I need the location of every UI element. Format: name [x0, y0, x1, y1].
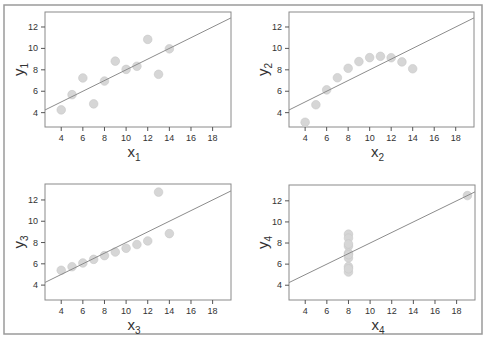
x-tick-label: 6 [324, 306, 329, 316]
data-point [111, 57, 120, 66]
x-tick-label: 16 [186, 306, 196, 316]
x-axis-label: x4 [371, 316, 385, 336]
data-point [122, 244, 131, 253]
x-tick-label: 12 [386, 133, 396, 143]
y-tick-label: 6 [33, 86, 38, 96]
x-tick-label: 4 [59, 133, 64, 143]
y-tick-label: 12 [28, 22, 38, 32]
x-tick-label: 8 [346, 133, 351, 143]
y-tick-label: 10 [28, 216, 38, 226]
x-tick-label: 18 [208, 133, 218, 143]
y-tick-label: 10 [272, 217, 282, 227]
x-axis-label: x3 [127, 316, 141, 336]
data-point [301, 118, 310, 127]
scatter-panel-2: 46810121416184681012x2y2 [254, 12, 474, 163]
x-tick-label: 10 [121, 133, 131, 143]
y-tick-label: 8 [33, 65, 38, 75]
data-point [376, 52, 385, 61]
data-point [344, 240, 353, 249]
data-point [143, 35, 152, 44]
data-point [79, 259, 88, 268]
x-tick-label: 16 [430, 306, 440, 316]
x-axis-label-subscript: 2 [378, 152, 384, 163]
x-tick-label: 16 [186, 133, 196, 143]
x-tick-label: 14 [408, 133, 418, 143]
y-tick-label: 4 [33, 108, 38, 118]
x-tick-label: 18 [451, 133, 461, 143]
data-point [165, 229, 174, 238]
x-tick-label: 6 [80, 133, 85, 143]
y-axis-label-subscript: 3 [19, 235, 30, 241]
data-point [57, 106, 66, 115]
x-tick-label: 8 [346, 306, 351, 316]
x-tick-label: 12 [387, 306, 397, 316]
x-tick-label: 14 [164, 306, 174, 316]
plot-frame [289, 12, 474, 127]
x-axis-label-subscript: 1 [135, 152, 141, 163]
x-tick-label: 12 [143, 133, 153, 143]
y-tick-label: 4 [277, 280, 282, 290]
data-point [398, 58, 407, 67]
x-tick-label: 18 [208, 306, 218, 316]
x-axis-label-subscript: 4 [379, 325, 385, 336]
x-tick-label: 4 [303, 306, 308, 316]
y-axis-label-subscript: 1 [19, 63, 30, 69]
data-point [154, 70, 163, 79]
data-point [154, 188, 163, 197]
y-tick-label: 6 [277, 259, 282, 269]
data-point [344, 264, 353, 273]
plot-frame [289, 185, 475, 300]
y-tick-label: 8 [33, 238, 38, 248]
data-point [100, 251, 109, 260]
y-axis-label: y4 [254, 236, 274, 250]
data-point [344, 64, 353, 73]
data-point [365, 53, 374, 62]
data-point [68, 262, 77, 271]
y-tick-label: 4 [277, 108, 282, 118]
x-axis-label: x2 [371, 143, 385, 163]
x-axis-label-subscript: 3 [135, 325, 141, 336]
y-tick-label: 6 [277, 86, 282, 96]
y-tick-label: 12 [28, 195, 38, 205]
data-point [143, 237, 152, 246]
x-tick-label: 4 [303, 133, 308, 143]
x-tick-label: 10 [365, 133, 375, 143]
x-tick-label: 12 [143, 306, 153, 316]
scatter-panel-4: 46810121416184681012x4y4 [254, 185, 475, 336]
x-tick-label: 6 [324, 133, 329, 143]
y-axis-label: y1 [10, 63, 30, 77]
y-axis-label: y3 [10, 235, 30, 249]
x-tick-label: 10 [121, 306, 131, 316]
y-tick-label: 10 [272, 43, 282, 53]
y-tick-label: 4 [33, 280, 38, 290]
y-axis-label: y2 [254, 63, 274, 77]
x-tick-label: 14 [408, 306, 418, 316]
scatter-panel-1: 46810121416184681012x1y1 [10, 12, 231, 163]
data-point [133, 240, 142, 249]
data-point [89, 255, 98, 264]
y-tick-label: 8 [277, 65, 282, 75]
y-axis-label-subscript: 2 [263, 63, 274, 69]
scatter-panel-3: 46810121416184681012x3y3 [10, 184, 231, 336]
x-axis-label: x1 [127, 143, 141, 163]
x-tick-label: 14 [164, 133, 174, 143]
y-tick-label: 6 [33, 259, 38, 269]
data-point [79, 74, 88, 83]
x-tick-label: 8 [102, 133, 107, 143]
data-point [408, 64, 417, 73]
y-tick-label: 12 [272, 22, 282, 32]
data-point [333, 73, 342, 82]
y-tick-label: 10 [28, 43, 38, 53]
x-tick-label: 4 [59, 306, 64, 316]
y-axis-label-subscript: 4 [263, 236, 274, 242]
x-tick-label: 16 [429, 133, 439, 143]
data-point [355, 57, 364, 66]
data-point [89, 100, 98, 109]
x-tick-label: 6 [80, 306, 85, 316]
data-point [312, 100, 321, 109]
anscombe-quartet-figure: 46810121416184681012x1y14681012141618468… [0, 0, 486, 339]
y-tick-label: 8 [277, 238, 282, 248]
x-tick-label: 18 [452, 306, 462, 316]
panels-container: 46810121416184681012x1y14681012141618468… [10, 12, 475, 336]
x-tick-label: 10 [365, 306, 375, 316]
